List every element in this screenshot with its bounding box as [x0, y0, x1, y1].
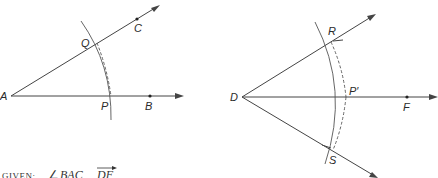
label-f: F [403, 101, 411, 113]
arrowhead-dr-icon [367, 14, 376, 21]
label-p-prime: P′ [349, 85, 359, 97]
point-c-dot [135, 17, 138, 20]
label-r: R [328, 25, 336, 37]
right-diagram: D R P′ F S [230, 14, 438, 178]
angle-symbol: ∠ [48, 168, 59, 178]
ray-ds [242, 97, 373, 175]
label-p: P [101, 100, 109, 112]
given-angle: BAC, [60, 168, 86, 178]
arrowhead-df-icon [429, 94, 438, 100]
label-d: D [230, 91, 238, 103]
label-c: C [134, 22, 142, 34]
dashed-arc-ps [333, 97, 346, 150]
left-diagram: A Q C P B [0, 5, 184, 120]
label-a: A [0, 90, 7, 102]
geometry-construction-figure: A Q C P B D R P′ F S GIVEN: ∠ BAC, DF [0, 0, 438, 178]
ray-overline-arrow-icon [112, 166, 117, 170]
arrowhead-ab-icon [175, 93, 184, 99]
given-ray: DF [96, 168, 114, 178]
arrowhead-ac-icon [151, 5, 160, 12]
point-b-dot [148, 94, 151, 97]
given-statement: GIVEN: ∠ BAC, DF [2, 166, 117, 178]
dashed-arc-rp [331, 42, 346, 97]
given-prefix: GIVEN: [2, 171, 36, 178]
point-f-dot [405, 95, 408, 98]
label-q: Q [81, 37, 90, 49]
label-s: S [329, 154, 337, 166]
label-b: B [145, 100, 152, 112]
